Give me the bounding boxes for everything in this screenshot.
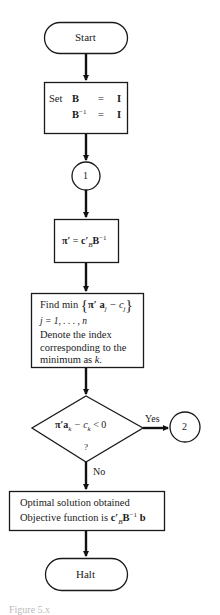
optimal-prefix: Objective function is (20, 512, 111, 523)
decision-mid: − c (71, 419, 87, 430)
find-min-expr: π′ a (88, 299, 105, 310)
optimal-B: B (123, 512, 130, 523)
init-line2-lhs: B−1 (72, 110, 86, 121)
optimal-vec: b (137, 512, 145, 523)
pi-eq: = (73, 235, 79, 246)
start-label: Start (75, 32, 96, 43)
connector-2-label: 2 (182, 422, 187, 432)
optimal-line1: Optimal solution obtained (20, 498, 130, 509)
find-min-minus: − c (107, 299, 124, 310)
init-line1-lhs: B (72, 94, 79, 105)
decision-question: ? (84, 443, 88, 452)
find-min-line5-prefix: minimum as (40, 354, 95, 365)
pi-B-sup: −1 (99, 234, 106, 242)
yes-label: Yes (145, 414, 160, 424)
no-label: No (93, 467, 105, 477)
decision-expr: π′ak − ck < 0 (55, 420, 106, 430)
init-line2-eq: = (98, 110, 104, 121)
init-line1-eq: = (98, 94, 104, 105)
init-line2-sup: −1 (79, 108, 86, 116)
find-min-line5-var: k. (95, 354, 102, 365)
brace-left: { (81, 297, 88, 313)
optimal-line2: Objective function is c′BB−1 b (20, 513, 146, 524)
init-line2-rhs: I (117, 110, 121, 121)
halt-label: Halt (76, 569, 95, 580)
decision-end: < 0 (91, 419, 107, 430)
optimal-sup: −1 (130, 511, 137, 519)
init-keyword: Set (49, 94, 62, 105)
find-min-line1: Find min {π′ aj − cj} (40, 298, 133, 313)
compute-pi-text: π′ = c′BB−1 (62, 236, 107, 246)
init-line1-rhs: I (117, 94, 121, 105)
find-min-line3: Denote the index (40, 330, 112, 341)
find-min-line5: minimum as k. (40, 355, 102, 366)
brace-right: } (126, 297, 133, 313)
find-min-line2: j = 1, . . . , n (40, 317, 87, 327)
init-line2-matrix: B (72, 109, 79, 120)
figure-caption: Figure 5.x (9, 604, 50, 615)
find-min-prefix: Find min (40, 299, 78, 310)
connector-1-label: 1 (83, 171, 88, 181)
decision-pi: π′a (55, 419, 68, 430)
find-min-line4: corresponding to the (40, 343, 126, 354)
pi-symbol: π′ (62, 235, 70, 246)
